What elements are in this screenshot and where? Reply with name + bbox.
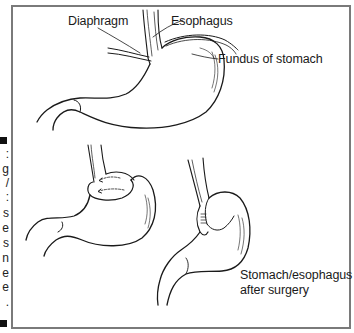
label-diaphragm: Diaphragm [68,14,128,29]
label-esophagus: Esophagus [171,14,233,29]
panel-fundus-wrap [26,145,156,256]
label-after-surgery-line1: Stomach/esophagus [240,268,352,283]
label-after-surgery-line2: after surgery [240,283,309,298]
panel-after-surgery [157,158,250,305]
label-fundus-of-stomach: Fundus of stomach [218,52,323,67]
